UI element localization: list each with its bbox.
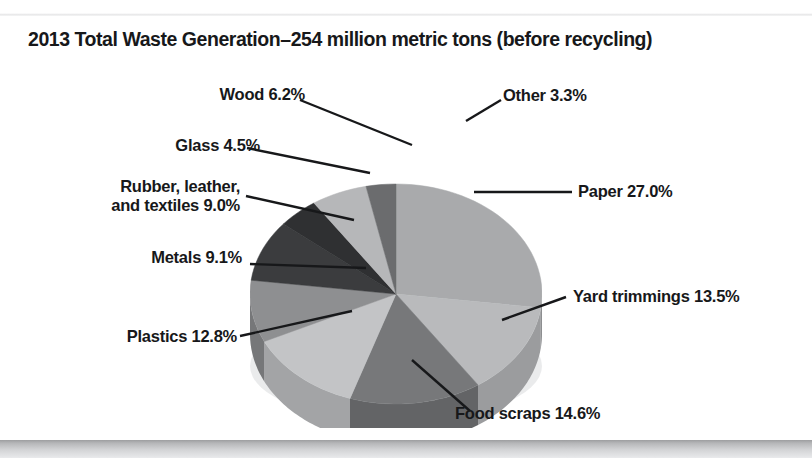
callout-paper[interactable]: Paper 27.0% — [578, 182, 672, 201]
callout-rubber-line2: and textiles 9.0% — [10, 196, 240, 215]
callout-yard-trimmings[interactable]: Yard trimmings 13.5% — [573, 287, 740, 306]
pie-chart-svg — [250, 98, 542, 428]
top-divider-rule — [0, 13, 812, 16]
callout-rubber-line1: Rubber, leather, — [10, 177, 240, 196]
pie-slice-paper[interactable] — [396, 184, 542, 308]
callout-plastics-label: Plastics 12.8% — [127, 327, 237, 345]
chart-title: 2013 Total Waste Generation–254 million … — [28, 28, 788, 51]
callout-metals[interactable]: Metals 9.1% — [10, 248, 242, 267]
callout-wood[interactable]: Wood 6.2% — [10, 85, 305, 104]
callout-rubber-leather-textiles[interactable]: Rubber, leather, and textiles 9.0% — [10, 177, 240, 215]
callout-glass[interactable]: Glass 4.5% — [10, 136, 260, 155]
callout-glass-label: Glass 4.5% — [175, 136, 260, 154]
callout-metals-label: Metals 9.1% — [151, 248, 242, 266]
callout-other-label: Other 3.3% — [503, 86, 587, 104]
waste-generation-pie-figure: 2013 Total Waste Generation–254 million … — [0, 0, 812, 458]
callout-food-scraps[interactable]: Food scraps 14.6% — [455, 404, 600, 423]
callout-yard-trimmings-label: Yard trimmings 13.5% — [573, 287, 740, 305]
callout-plastics[interactable]: Plastics 12.8% — [10, 327, 237, 346]
bottom-divider-rule — [0, 440, 812, 458]
callout-food-scraps-label: Food scraps 14.6% — [455, 404, 600, 422]
callout-wood-label: Wood 6.2% — [220, 85, 305, 103]
pie-top-faces — [250, 184, 542, 404]
pie-chart — [250, 98, 542, 428]
callout-other[interactable]: Other 3.3% — [503, 86, 587, 105]
callout-paper-label: Paper 27.0% — [578, 182, 672, 200]
